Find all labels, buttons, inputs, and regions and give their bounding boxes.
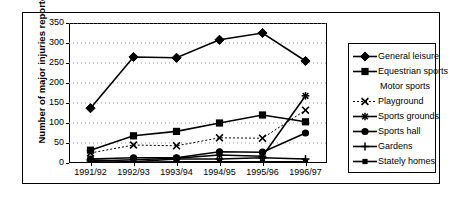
y-axis-tick-mark [66, 163, 69, 164]
square-marker-icon [352, 64, 378, 77]
y-axis-tick-label: 150 [25, 98, 69, 107]
plus-marker-icon [352, 139, 378, 152]
y-axis-tick-label: 350 [25, 18, 69, 27]
x-axis-tick-mark [134, 163, 135, 166]
legend-item: Playground [349, 93, 435, 108]
x-axis-tick-mark [91, 163, 92, 166]
legend-label: General leisure [378, 51, 439, 61]
y-axis-tick-mark [66, 143, 69, 144]
y-axis-tick-label: 250 [25, 58, 69, 67]
legend-label: Motor sports [378, 81, 430, 91]
y-axis-tick-label: 0 [25, 158, 69, 167]
cross-x-marker-icon [352, 94, 378, 107]
y-axis-tick-label: 50 [25, 138, 69, 147]
chart-figure: Number of major injuries reported 050100… [22, 12, 440, 184]
y-axis-tick-label: 200 [25, 78, 69, 87]
legend-item: Motor sports [349, 78, 435, 93]
chart-svg [69, 23, 327, 163]
series-general-leisure [86, 28, 310, 112]
legend-item: Gardens [349, 138, 435, 153]
y-axis-tick-label: 100 [25, 118, 69, 127]
y-axis-tick-mark [66, 43, 69, 44]
y-axis-tick-mark [66, 83, 69, 84]
y-axis-tick-mark [66, 63, 69, 64]
series-playground [87, 107, 309, 157]
legend-label: Sports hall [378, 126, 421, 136]
legend-label: Equestrian sports [378, 66, 448, 76]
y-axis-tick-mark [66, 123, 69, 124]
legend-label: Gardens [378, 141, 413, 151]
x-axis-tick-label: 1996/97 [276, 167, 336, 177]
y-axis-tick-mark [66, 103, 69, 104]
x-axis-tick-mark [306, 163, 307, 166]
chart-legend: General leisureEquestrian sportsMotor sp… [348, 43, 436, 173]
plot-area: 0501001502002503003501991/921992/931993/… [69, 23, 327, 163]
x-axis-tick-mark [220, 163, 221, 166]
small-square-marker-icon [352, 154, 378, 167]
x-axis-tick-mark [263, 163, 264, 166]
legend-label: Sports grounds [378, 111, 439, 121]
x-axis-tick-mark [177, 163, 178, 166]
legend-label: Stately homes [378, 156, 435, 166]
legend-item: Sports grounds [349, 108, 435, 123]
legend-label: Playground [378, 96, 424, 106]
diamond-marker-icon [352, 49, 378, 62]
legend-item: Sports hall [349, 123, 435, 138]
asterisk-marker-icon [352, 109, 378, 122]
legend-item: General leisure [349, 48, 435, 63]
legend-item: Equestrian sports [349, 63, 435, 78]
circle-marker-icon [352, 124, 378, 137]
y-axis-tick-mark [66, 23, 69, 24]
y-axis-tick-label: 300 [25, 38, 69, 47]
legend-item: Stately homes [349, 153, 435, 168]
series-equestrian-sports [87, 111, 309, 153]
